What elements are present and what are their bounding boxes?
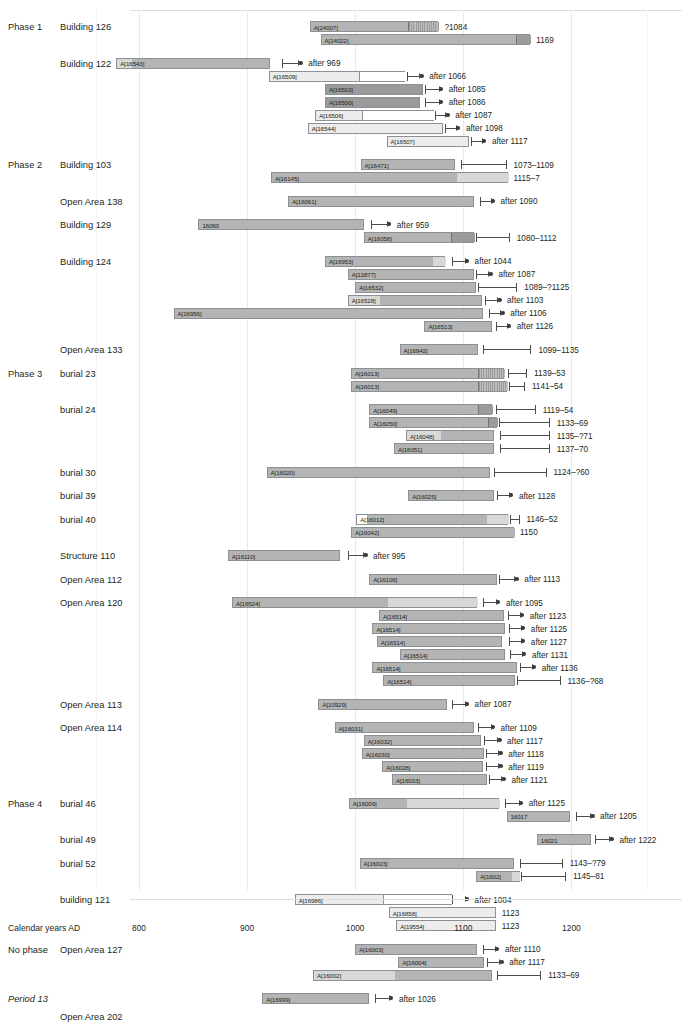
bar-tail-segment [451,233,475,242]
date-bar[interactable]: A[16020] [267,467,491,478]
gridline-minor-1270 [647,10,648,890]
bar-context-label: A[10929] [322,701,346,708]
date-bar[interactable]: A[16025] [408,490,493,501]
date-bar[interactable]: A[16013] [351,368,505,379]
date-bar[interactable]: A[16999] [262,993,369,1004]
date-bar[interactable]: A[16500] [325,97,420,108]
date-bar[interactable]: A[16514] [377,636,502,647]
date-bar[interactable]: 16017 [507,811,571,822]
date-bar[interactable]: A[13877] [348,269,474,280]
date-bar[interactable]: A[16514] [372,623,505,634]
group-label: burial 23 [60,369,96,379]
date-bar[interactable]: A[16544] [308,123,443,134]
date-bar[interactable]: A[16503] [325,84,423,95]
date-bar[interactable]: A[16061] [288,196,474,207]
date-bar[interactable]: A[16528] [348,295,482,306]
date-annotation-range: 1099–1135 [538,345,578,354]
whisker-cap-left [489,309,490,318]
date-bar[interactable]: A[16049] [369,404,492,415]
date-annotation-after: after 995 [373,551,405,560]
date-annotation-text: 1150 [520,528,538,537]
x-tick-label-1100: 1100 [454,923,472,933]
bar-tail-segment [488,418,498,427]
date-bar[interactable]: A[16031] [335,722,474,733]
date-bar[interactable]: A[16513] [424,321,492,332]
date-bar[interactable]: A[16543] [116,58,270,69]
group-label: burial 39 [60,491,96,501]
group-label: Open Area 114 [60,723,122,733]
date-range-whisker [520,662,535,673]
date-bar[interactable]: A[16514] [400,649,506,660]
whisker-line [509,386,525,387]
date-bar[interactable]: A[16042] [351,527,514,538]
date-bar[interactable]: A[16002] [313,970,492,981]
date-bar[interactable]: A[16009] [349,798,499,809]
date-bar[interactable]: A[16514] [372,662,517,673]
bar-context-label: A[16033] [396,776,420,783]
date-bar[interactable]: A[16050] [369,417,497,428]
date-bar[interactable]: 16060 [198,219,363,230]
whisker-cap-left [371,220,372,229]
date-bar[interactable]: A[16033] [392,774,487,785]
bar-context-label: A[16009] [353,800,377,807]
bar-context-label: A[16110] [232,552,256,559]
date-bar[interactable]: A[16514] [383,675,515,686]
date-bar[interactable]: A[16509] [269,71,405,82]
date-bar[interactable]: A[16028] [382,761,483,772]
date-bar[interactable]: A[10929] [318,699,447,710]
date-bar[interactable]: A[16030] [362,748,484,759]
phase-label: Period 13 [8,994,48,1004]
date-bar[interactable]: A[16106] [369,574,497,585]
whisker-line [521,876,566,877]
date-bar[interactable]: A[16058] [364,232,474,243]
bar-context-label: A[16507] [391,138,415,145]
date-annotation-after: after 1098 [466,124,503,133]
date-annotation-after: after 959 [397,220,429,229]
date-bar[interactable]: A[24007] [310,21,439,32]
date-annotation-after: after 1222 [619,835,656,844]
date-bar[interactable]: A[16953] [325,256,445,267]
bar-tail-segment [478,369,505,378]
whisker-line [478,287,517,288]
whisker-cap-left [375,994,376,1003]
bar-context-label: A[16061] [292,198,316,205]
whisker-cap-left [485,296,486,305]
date-bar[interactable]: A[16956] [174,308,483,319]
date-bar[interactable]: A[16524] [232,597,477,608]
date-bar[interactable]: A[1602] [476,871,519,882]
date-bar[interactable]: A[24022] [321,34,531,45]
date-bar[interactable]: A[16048] [406,430,494,441]
date-bar[interactable]: A[16051] [394,443,493,454]
bar-context-label: A[16050] [373,419,397,426]
whisker-cap-left [483,345,484,354]
date-bar[interactable]: A[16514] [379,610,504,621]
whisker-terminus-dot [498,298,502,302]
bar-context-label: A[24007] [314,23,338,30]
date-bar[interactable]: A[16110] [228,550,340,561]
bar-context-label: A[16532] [359,284,383,291]
date-bar[interactable]: A[16003] [355,944,477,955]
date-bar[interactable]: A[16023] [360,858,515,869]
whisker-cap-left [520,663,521,672]
date-bar[interactable]: A[16471] [361,159,455,170]
date-bar[interactable]: 16021 [537,834,591,845]
date-bar[interactable]: A[16004] [398,957,483,968]
group-label: Structure 110 [60,551,115,561]
top-rule [130,10,682,11]
date-bar[interactable]: A[16532] [355,282,476,293]
date-bar[interactable]: A[16145] [271,172,508,183]
whisker-cap-left [520,859,521,868]
date-bar[interactable]: A[16858] [389,907,496,918]
date-bar[interactable]: A[16507] [387,136,469,147]
whisker-cap-left [499,418,500,427]
date-bar[interactable]: A[19554] [396,920,495,931]
bar-lead-segment [349,296,380,305]
date-bar[interactable]: A[16032] [364,735,481,746]
date-bar[interactable]: A[16942] [400,344,479,355]
date-range-whisker [489,308,503,319]
whisker-cap-right [516,283,517,292]
date-bar[interactable]: A[16012] [356,514,507,525]
date-bar[interactable]: A[16506] [315,110,434,121]
date-bar[interactable]: A[16013] [351,381,507,392]
whisker-cap-right [526,369,527,378]
